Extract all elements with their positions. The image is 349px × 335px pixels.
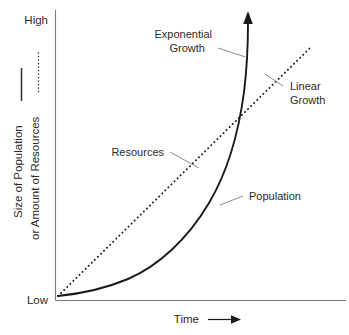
annotation-linear-growth-line-2: Growth	[290, 94, 325, 106]
annotation-resources: Resources	[111, 146, 164, 158]
chart-canvas: High Low Size of Population or Amount of…	[0, 0, 349, 335]
growth-diagram: High Low Size of Population or Amount of…	[0, 0, 349, 335]
leader-line-resources	[170, 152, 199, 168]
annotation-population: Population	[249, 190, 301, 202]
annotation-exponential-growth-line-1: Exponential	[155, 28, 213, 40]
series-line-population	[58, 22, 248, 296]
x-axis-title: Time	[174, 313, 199, 325]
leader-line-exponential-growth	[218, 48, 246, 57]
annotation-exponential-growth-line-2: Growth	[170, 42, 205, 54]
y-axis-high-label: High	[24, 14, 48, 26]
y-axis-low-label: Low	[27, 294, 49, 306]
y-axis-title-line-1: Size of Population	[12, 125, 24, 218]
population-curve-arrowhead	[243, 11, 253, 24]
time-arrow-head-icon	[231, 315, 241, 324]
legend-group	[22, 53, 39, 101]
annotation-linear-growth: Linear Growth	[290, 80, 325, 106]
series-line-resources	[58, 48, 310, 296]
leader-line-population	[220, 196, 243, 205]
y-axis-title-group: Size of Population or Amount of Resource…	[12, 116, 41, 240]
leader-line-linear-growth	[265, 74, 283, 86]
x-axis-title-group: Time	[174, 313, 241, 325]
leader-lines-group	[170, 48, 283, 205]
y-axis-title-line-2: or Amount of Resources	[29, 116, 41, 240]
annotation-exponential-growth: Exponential Growth	[155, 28, 213, 54]
annotation-linear-growth-line-1: Linear	[290, 80, 321, 92]
